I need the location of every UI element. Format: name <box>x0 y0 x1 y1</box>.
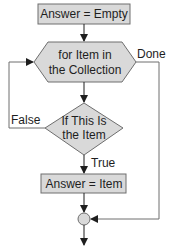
start-node-label: Answer = Empty <box>40 7 128 21</box>
loop-node-label-line1: for Item in <box>58 48 111 62</box>
done-label: Done <box>137 47 166 61</box>
decision-node-label-line1: If This Is <box>61 114 106 128</box>
loop-node-label-line2: the Collection <box>49 63 122 77</box>
loop-node: for Item in the Collection <box>34 42 136 82</box>
assign-node-label: Answer = Item <box>45 177 122 191</box>
flowchart-diagram: Answer = Empty for Item in the Collectio… <box>0 0 170 251</box>
true-label: True <box>91 156 116 170</box>
false-label: False <box>11 113 41 127</box>
decision-node: If This Is the Item <box>45 103 123 155</box>
assign-node: Answer = Item <box>41 174 126 193</box>
join-node <box>78 213 90 225</box>
start-node: Answer = Empty <box>38 4 130 24</box>
decision-node-label-line2: the Item <box>62 128 105 142</box>
